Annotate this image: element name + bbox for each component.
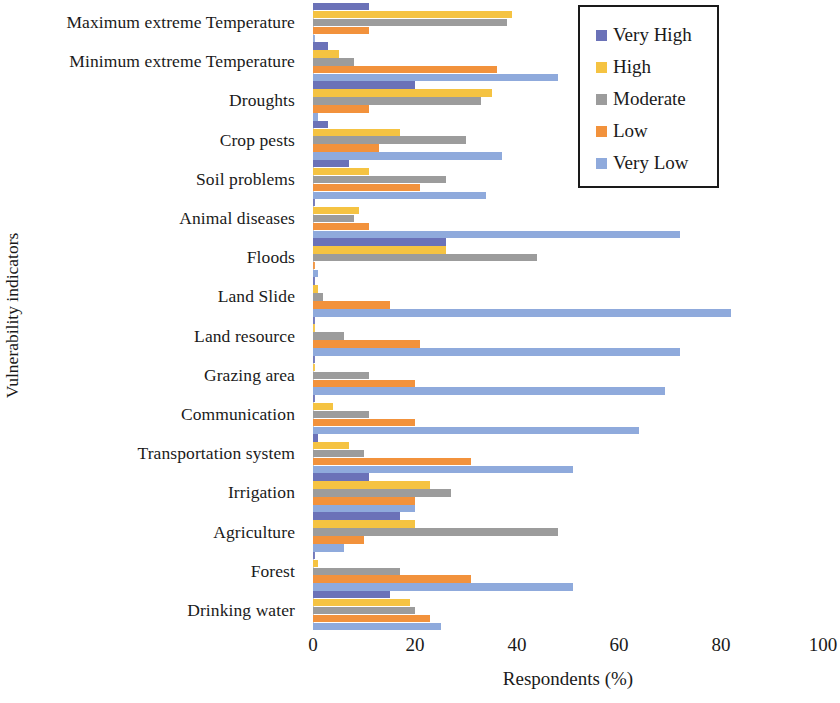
x-tick-label: 60 xyxy=(610,634,629,656)
bar-very-high xyxy=(313,3,369,10)
legend-label: Very Low xyxy=(613,152,688,174)
category-axis-labels: Maximum extreme TemperatureMinimum extre… xyxy=(26,3,304,630)
legend-item[interactable]: Very Low xyxy=(596,147,717,179)
category-label: Forest xyxy=(26,552,304,591)
bar-low xyxy=(313,66,497,73)
x-tick-label: 80 xyxy=(712,634,731,656)
vulnerability-indicators-bar-chart: Vulnerability indicators Maximum extreme… xyxy=(0,0,840,703)
bar-moderate xyxy=(313,489,451,496)
bar-high xyxy=(313,442,349,449)
x-axis-title: Respondents (%) xyxy=(313,668,823,690)
x-axis-tick-labels: 020406080100 xyxy=(313,634,823,662)
bar-high xyxy=(313,560,318,567)
legend-item[interactable]: High xyxy=(596,51,717,83)
x-tick-label: 100 xyxy=(809,634,838,656)
bar-low xyxy=(313,27,369,34)
y-axis-title: Vulnerability indicators xyxy=(0,0,26,630)
category-label: Agriculture xyxy=(26,512,304,551)
category-label: Irrigation xyxy=(26,473,304,512)
bar-group xyxy=(313,277,823,316)
bar-high xyxy=(313,285,318,292)
bar-moderate xyxy=(313,176,446,183)
bar-low xyxy=(313,536,364,543)
legend-item[interactable]: Moderate xyxy=(596,83,717,115)
bar-very-low xyxy=(313,113,318,120)
bar-very-low xyxy=(313,270,318,277)
legend-label: Very High xyxy=(613,24,692,46)
bar-group xyxy=(313,395,823,434)
bar-group xyxy=(313,238,823,277)
bar-very-low xyxy=(313,505,415,512)
category-label: Grazing area xyxy=(26,356,304,395)
bar-low xyxy=(313,380,415,387)
bar-very-high xyxy=(313,591,390,598)
bar-high xyxy=(313,403,333,410)
bar-high xyxy=(313,246,446,253)
bar-very-low xyxy=(313,309,731,316)
bar-group xyxy=(313,81,823,120)
bar-high xyxy=(313,207,359,214)
bar-low xyxy=(313,144,379,151)
bar-low xyxy=(313,497,415,504)
legend-swatch-icon xyxy=(596,158,607,169)
bar-moderate xyxy=(313,58,354,65)
legend-swatch-icon xyxy=(596,126,607,137)
x-tick-label: 0 xyxy=(308,634,318,656)
bar-group xyxy=(313,3,823,42)
bar-high xyxy=(313,599,410,606)
bar-high xyxy=(313,481,430,488)
bar-low xyxy=(313,184,420,191)
bar-low xyxy=(313,615,430,622)
legend-swatch-icon xyxy=(596,30,607,41)
bar-very-low xyxy=(313,466,573,473)
bar-low xyxy=(313,575,471,582)
category-label: Maximum extreme Temperature xyxy=(26,3,304,42)
legend-swatch-icon xyxy=(596,94,607,105)
legend-label: Low xyxy=(613,120,648,142)
bar-low xyxy=(313,262,315,269)
bar-group xyxy=(313,434,823,473)
x-axis-line xyxy=(313,630,823,631)
bar-group xyxy=(313,121,823,160)
bar-moderate xyxy=(313,97,481,104)
category-label: Transportation system xyxy=(26,434,304,473)
bar-low xyxy=(313,458,471,465)
bar-moderate xyxy=(313,450,364,457)
bar-group xyxy=(313,512,823,551)
bar-very-high xyxy=(313,473,369,480)
bar-group xyxy=(313,317,823,356)
bar-very-low xyxy=(313,231,680,238)
bar-very-low xyxy=(313,35,315,42)
category-label: Communication xyxy=(26,395,304,434)
legend-item[interactable]: Low xyxy=(596,115,717,147)
chart-legend: Very HighHighModerateLowVery Low xyxy=(578,5,719,188)
bar-very-low xyxy=(313,427,639,434)
bar-moderate xyxy=(313,607,415,614)
bar-very-high xyxy=(313,395,315,402)
y-axis-title-text: Vulnerability indicators xyxy=(3,232,24,398)
bar-very-high xyxy=(313,317,315,324)
bar-low xyxy=(313,301,390,308)
bar-very-low xyxy=(313,544,344,551)
category-label: Drinking water xyxy=(26,591,304,630)
bar-high xyxy=(313,168,369,175)
legend-item[interactable]: Very High xyxy=(596,19,717,51)
bar-very-low xyxy=(313,74,558,81)
bar-group xyxy=(313,199,823,238)
category-label: Soil problems xyxy=(26,160,304,199)
bar-very-high xyxy=(313,199,315,206)
bar-moderate xyxy=(313,136,466,143)
bar-very-high xyxy=(313,512,400,519)
bar-moderate xyxy=(313,411,369,418)
bar-very-high xyxy=(313,552,315,559)
bar-very-high xyxy=(313,277,315,284)
bar-high xyxy=(313,364,315,371)
legend-label: High xyxy=(613,56,651,78)
bar-very-low xyxy=(313,348,680,355)
bar-very-high xyxy=(313,356,315,363)
x-tick-label: 20 xyxy=(406,634,425,656)
bar-very-low xyxy=(313,192,486,199)
bar-very-high xyxy=(313,81,415,88)
bar-group xyxy=(313,591,823,630)
bar-high xyxy=(313,89,492,96)
